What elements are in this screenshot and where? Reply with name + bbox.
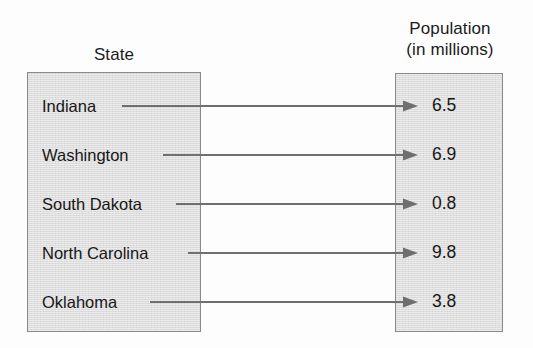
- list-item-state-5: Oklahoma: [42, 293, 117, 311]
- list-item-state-4: North Carolina: [42, 244, 148, 262]
- list-item-state-2: Washington: [42, 146, 129, 164]
- list-item-population-3: 0.8: [432, 194, 482, 212]
- mapping-diagram: State Population (in millions) Indiana W…: [0, 0, 533, 348]
- state-column-header: State: [34, 44, 194, 65]
- mapping-arrow-3: [176, 197, 418, 211]
- list-item-population-5: 3.8: [432, 292, 482, 310]
- list-item-population-4: 9.8: [432, 243, 482, 261]
- list-item-state-1: Indiana: [42, 97, 96, 115]
- mapping-arrow-2: [163, 148, 418, 162]
- list-item-state-3: South Dakota: [42, 195, 142, 213]
- list-item-population-1: 6.5: [432, 96, 482, 114]
- mapping-arrow-4: [188, 246, 418, 260]
- population-column-header: Population (in millions): [388, 18, 512, 60]
- list-item-population-2: 6.9: [432, 145, 482, 163]
